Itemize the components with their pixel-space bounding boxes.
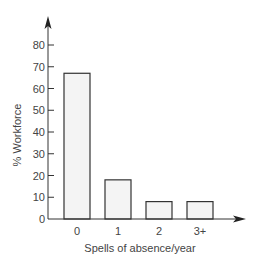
- x-tick-label: 2: [156, 225, 162, 237]
- bar-3+: [187, 202, 213, 219]
- x-axis-ticks: 0123+: [74, 225, 206, 237]
- bars: [64, 73, 213, 219]
- y-tick-label: 80: [33, 39, 45, 51]
- y-tick-label: 60: [33, 83, 45, 95]
- bar-1: [105, 180, 131, 219]
- y-axis-label: % Workforce: [11, 104, 23, 167]
- x-tick-label: 3+: [194, 225, 207, 237]
- y-tick-label: 0: [39, 213, 45, 225]
- y-tick-label: 30: [33, 148, 45, 160]
- bar-0: [64, 73, 90, 219]
- x-tick-label: 0: [74, 225, 80, 237]
- y-axis-ticks: 01020304050607080: [33, 39, 54, 225]
- y-tick-label: 10: [33, 191, 45, 203]
- y-tick-label: 20: [33, 170, 45, 182]
- y-tick-label: 50: [33, 104, 45, 116]
- bar-2: [146, 202, 172, 219]
- x-tick-label: 1: [115, 225, 121, 237]
- y-tick-label: 40: [33, 126, 45, 138]
- y-tick-label: 70: [33, 61, 45, 73]
- bar-chart: 01020304050607080 0123+ Spells of absenc…: [0, 0, 266, 265]
- x-axis-label: Spells of absence/year: [84, 242, 196, 254]
